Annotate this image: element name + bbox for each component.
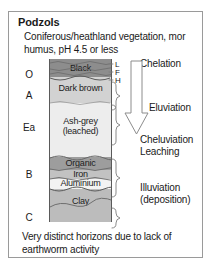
- soil-profile-column: Black Dark brown Ash-grey (leached) Orga…: [49, 59, 112, 222]
- vegetation-description: Coniferous/heathland vegetation, mor hum…: [24, 31, 202, 56]
- litter-layer-h: H: [115, 77, 121, 85]
- footnote-text: Very distinct horizons due to lack of ea…: [22, 231, 202, 256]
- horizon-boundary-waves: [50, 59, 112, 222]
- process-deposition: (deposition): [140, 194, 190, 206]
- horizon-code-o: O: [18, 69, 40, 80]
- process-leaching: Leaching: [140, 146, 179, 158]
- horizon-code-ea: Ea: [18, 122, 40, 133]
- horizon-code-c: C: [18, 212, 40, 223]
- podzol-diagram-panel: Podzols Coniferous/heathland vegetation,…: [8, 11, 203, 258]
- process-eluviation: Eluviation: [149, 102, 191, 114]
- horizon-code-b: B: [18, 169, 40, 180]
- down-arrow-icon: [125, 61, 148, 134]
- process-chelation: Chelation: [140, 58, 181, 70]
- horizon-code-a: A: [18, 90, 40, 101]
- process-cheluviation: Cheluviation: [140, 134, 193, 146]
- page-title: Podzols: [18, 16, 59, 28]
- process-illuviation: Illuviation: [140, 182, 180, 194]
